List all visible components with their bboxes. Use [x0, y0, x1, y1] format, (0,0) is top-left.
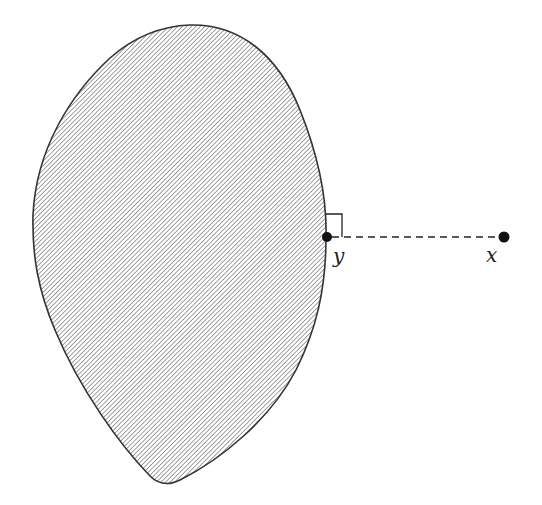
convex-region [33, 25, 326, 484]
diagram-canvas: y x [0, 0, 542, 505]
point-y-marker [322, 232, 332, 242]
point-x-marker [499, 232, 510, 243]
point-x-label: x [486, 243, 497, 267]
point-y-label: y [332, 244, 345, 268]
